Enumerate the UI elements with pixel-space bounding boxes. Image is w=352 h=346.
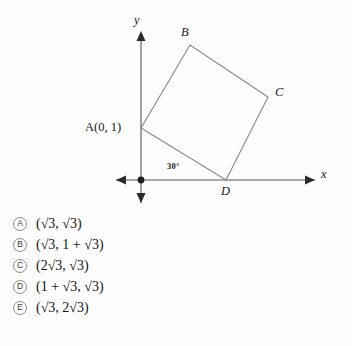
choice-text-e: (√3, 2√3) — [36, 301, 89, 315]
y-axis-arrow-down — [137, 193, 146, 203]
choice-text-d: (1 + √3, √3) — [36, 280, 104, 294]
choice-bubble-a[interactable]: A — [13, 217, 27, 231]
choice-row-c[interactable]: C (2√3, √3) — [0, 255, 352, 276]
choice-bubble-e[interactable]: E — [13, 301, 27, 315]
choice-text-a: (√3, √3) — [36, 217, 82, 231]
choice-row-d[interactable]: D (1 + √3, √3) — [0, 276, 352, 297]
y-axis-label: y — [134, 14, 140, 27]
choice-row-a[interactable]: A (√3, √3) — [0, 213, 352, 234]
choice-text-c: (2√3, √3) — [36, 259, 89, 273]
choice-text-b: (√3, 1 + √3) — [36, 238, 104, 252]
answer-choices-list: A (√3, √3) B (√3, 1 + √3) C (2√3, √3) D … — [0, 213, 352, 318]
vertex-label-a: A(0, 1) — [85, 121, 121, 134]
choice-bubble-b[interactable]: B — [13, 238, 27, 252]
figure-drawing — [0, 0, 352, 210]
y-axis-arrow-up — [137, 31, 146, 41]
choice-row-b[interactable]: B (√3, 1 + √3) — [0, 234, 352, 255]
geometry-problem: y x B C D A(0, 1) 30° A (√3, √3) B (√3, … — [0, 0, 352, 346]
vertex-label-b: B — [181, 26, 189, 39]
angle-label-30: 30° — [167, 162, 180, 171]
coordinate-figure: y x B C D A(0, 1) 30° — [0, 0, 352, 210]
choice-row-e[interactable]: E (√3, 2√3) — [0, 297, 352, 318]
origin-dot — [138, 177, 145, 184]
vertex-label-c: C — [275, 86, 283, 99]
square-abcd — [141, 45, 268, 180]
x-axis-arrow-right — [305, 176, 315, 185]
choice-bubble-c[interactable]: C — [13, 259, 27, 273]
choice-bubble-d[interactable]: D — [13, 280, 27, 294]
x-axis-arrow-left — [116, 176, 126, 185]
x-axis-label: x — [321, 168, 327, 181]
vertex-label-d: D — [221, 185, 230, 198]
